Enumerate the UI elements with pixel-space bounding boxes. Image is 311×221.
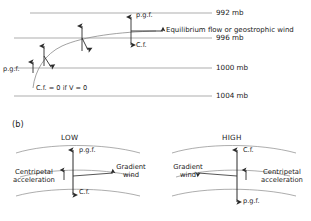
isobar-label-992: 992 mb: [216, 9, 244, 16]
high-centripetal-line2: acceleration: [261, 176, 303, 184]
parcel-trajectory: [33, 31, 156, 88]
low-center-label: LOW: [61, 134, 78, 141]
origin-cf-note: C.f. = 0 if V = 0: [36, 85, 87, 92]
equilibrium-flow-label: Equilibrium flow or geostrophic wind: [166, 27, 294, 34]
high-centripetal-label: Centripetal acceleration: [256, 168, 308, 185]
high-pgf-label: p.g.f.: [243, 198, 260, 205]
figure-canvas: 992 mb 996 mb 1000 mb 1004 mb p.g.f. C.f…: [0, 0, 311, 221]
low-gradient-wind-arrow: [73, 173, 113, 176]
high-wind-line2: wind: [180, 171, 196, 179]
isobar-label-1004: 1004 mb: [216, 92, 248, 99]
high-gradient-wind-label: Gradient wind: [170, 163, 206, 180]
panel-b-tag: (b): [12, 120, 24, 128]
high-center-label: HIGH: [222, 134, 242, 141]
low-cf-label: C.f.: [79, 189, 90, 196]
low-gradient-wind-label: Gradient wind: [113, 163, 149, 180]
isobar-label-996: 996 mb: [216, 34, 244, 41]
low-wind-line1: Gradient: [116, 163, 146, 171]
high-cf-label: C.f.: [243, 147, 254, 154]
cf-arrow-1: [44, 56, 51, 67]
cf-label-panel-a: C.f.: [136, 42, 147, 49]
high-centripetal-line1: Centripetal: [263, 168, 301, 176]
low-centripetal-line1: Centripetal: [15, 168, 53, 176]
high-wind-line1: Gradient: [173, 163, 203, 171]
high-isobar-outer: [172, 146, 296, 154]
cf-arrow-2: [82, 38, 88, 50]
low-centripetal-line2: acceleration: [13, 176, 55, 184]
isobar-label-1000: 1000 mb: [216, 64, 248, 71]
low-isobar-outer: [16, 146, 140, 154]
origin-pgf-label: p.g.f.: [3, 66, 20, 73]
low-pgf-label: p.g.f.: [79, 147, 96, 154]
pgf-label-panel-a: p.g.f.: [136, 12, 153, 19]
low-isobar-inner: [16, 189, 140, 196]
low-centripetal-label: Centripetal acceleration: [8, 168, 60, 185]
high-isobar-inner: [172, 189, 296, 196]
low-wind-line2: wind: [123, 171, 139, 179]
